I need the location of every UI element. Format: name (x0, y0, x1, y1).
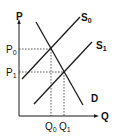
curves (22, 17, 92, 105)
tick-q0-sub: 0 (53, 126, 57, 133)
supply-curve-s1 (34, 42, 92, 104)
y-axis-label: P (16, 11, 23, 22)
label-s0: S0 (81, 12, 92, 24)
label-d: D (91, 93, 98, 104)
tick-p1: P1 (6, 67, 17, 79)
tick-q0: Q0 (45, 121, 57, 133)
demand-curve-d (36, 22, 83, 105)
x-axis-arrow-icon (94, 114, 99, 117)
axes (17, 19, 99, 118)
supply-demand-chart: P Q S0 S1 D P0 P1 Q0 Q1 (0, 0, 116, 140)
x-axis-label: Q (101, 111, 109, 122)
tick-p1-sub: 1 (13, 72, 17, 79)
tick-q1-sub: 1 (67, 126, 71, 133)
tick-p0: P0 (6, 44, 17, 56)
label-s1-sub: 1 (103, 45, 107, 52)
tick-q1: Q1 (59, 121, 71, 133)
label-s0-sub: 0 (88, 17, 92, 24)
label-s1: S1 (96, 40, 107, 52)
tick-p0-sub: 0 (13, 49, 17, 56)
